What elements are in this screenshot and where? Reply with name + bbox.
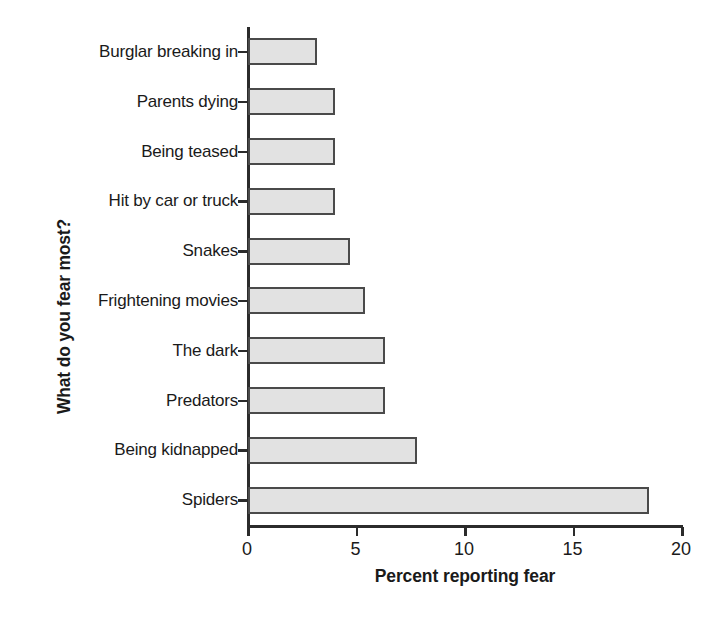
- x-axis-tick-label: 20: [656, 539, 706, 560]
- y-axis-tick: [238, 200, 247, 203]
- bar: [248, 387, 385, 414]
- bar: [248, 437, 417, 464]
- x-axis-tick: [464, 527, 467, 536]
- y-axis-tick-label: Burglar breaking in: [38, 43, 238, 60]
- y-axis-tick: [238, 499, 247, 502]
- x-axis-tick: [681, 527, 684, 536]
- bar-chart-figure: What do you fear most? Burglar breaking …: [0, 0, 726, 621]
- y-axis-tick: [238, 250, 247, 253]
- y-axis-tick-label: Spiders: [38, 491, 238, 508]
- plot-area: 05101520: [247, 27, 681, 525]
- y-axis-tick-label: Frightening movies: [38, 292, 238, 309]
- bar: [248, 287, 365, 314]
- y-axis-tick: [238, 101, 247, 104]
- x-axis-tick: [356, 527, 359, 536]
- bar: [248, 188, 335, 215]
- x-axis-tick: [247, 527, 250, 536]
- y-axis-tick: [238, 151, 247, 154]
- y-axis-tick: [238, 51, 247, 54]
- y-axis-tick-label: Snakes: [38, 242, 238, 259]
- bar: [248, 138, 335, 165]
- y-axis-tick: [238, 350, 247, 353]
- x-axis-tick-label: 5: [331, 539, 381, 560]
- category-label-column: Burglar breaking inParents dyingBeing te…: [38, 0, 238, 621]
- x-axis-tick-label: 10: [439, 539, 489, 560]
- x-axis-title: Percent reporting fear: [247, 566, 683, 587]
- y-axis-tick-label: Parents dying: [38, 93, 238, 110]
- x-axis-tick: [573, 527, 576, 536]
- y-axis-tick-label: Being kidnapped: [38, 441, 238, 458]
- x-axis-tick-label: 15: [548, 539, 598, 560]
- bar: [248, 238, 350, 265]
- bar: [248, 487, 649, 514]
- y-axis-tick-label: Predators: [38, 392, 238, 409]
- y-axis-tick-label: The dark: [38, 342, 238, 359]
- y-axis-tick: [238, 400, 247, 403]
- y-axis-tick-label: Being teased: [38, 143, 238, 160]
- y-axis-tick: [238, 449, 247, 452]
- y-axis-tick-label: Hit by car or truck: [38, 192, 238, 209]
- bar: [248, 337, 385, 364]
- x-axis-tick-label: 0: [222, 539, 272, 560]
- bar: [248, 88, 335, 115]
- y-axis-tick: [238, 300, 247, 303]
- bar: [248, 38, 317, 65]
